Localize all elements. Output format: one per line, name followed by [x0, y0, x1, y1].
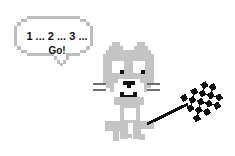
mouth [120, 92, 124, 97]
illustration-scene: 1 ... 2 ... 3 ... Go! [0, 0, 235, 156]
speech-bubble-go: Go! [22, 45, 92, 56]
pixel-cat [93, 42, 160, 141]
right-eye [141, 70, 145, 74]
nose [123, 81, 135, 85]
speech-bubble-countdown: 1 ... 2 ... 3 ... [22, 30, 92, 42]
left-eye [120, 70, 124, 74]
flag-pole [147, 104, 188, 124]
